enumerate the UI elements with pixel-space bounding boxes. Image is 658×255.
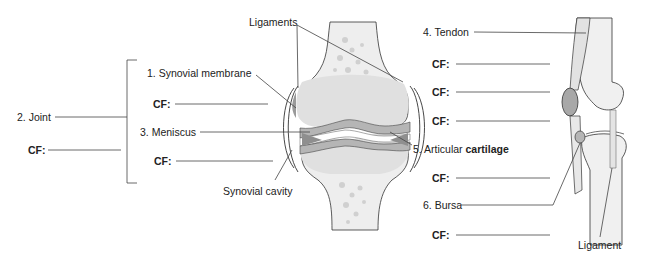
label-joint: 2. Joint (17, 111, 51, 123)
cf-meniscus[interactable]: CF: (154, 155, 172, 167)
articular-prefix: 5. Articular (413, 143, 466, 155)
patella (562, 88, 578, 116)
label-ligament: Ligament (578, 239, 621, 251)
cf-articular-cartilage[interactable]: CF: (432, 172, 450, 184)
knee-diagram-art (0, 0, 658, 255)
label-tendon: 4. Tendon (423, 26, 469, 38)
cf-tendon-3[interactable]: CF: (432, 115, 450, 127)
cf-tendon-1[interactable]: CF: (432, 58, 450, 70)
label-meniscus: 3. Meniscus (140, 126, 196, 138)
label-synovial-membrane: 1. Synovial membrane (147, 67, 251, 79)
label-ligaments: Ligaments (249, 16, 297, 28)
cf-synovial-membrane[interactable]: CF: (153, 98, 171, 110)
joint-capsule-left (288, 86, 298, 172)
label-synovial-cavity: Synovial cavity (223, 185, 292, 197)
cf-joint[interactable]: CF: (28, 144, 46, 156)
bursa (575, 131, 585, 143)
label-bursa: 6. Bursa (423, 199, 462, 211)
cf-tendon-2[interactable]: CF: (432, 86, 450, 98)
side-tibia (582, 134, 627, 245)
label-articular-cartilage: 5. Articular cartilage (413, 143, 509, 155)
cf-bursa[interactable]: CF: (432, 229, 450, 241)
articular-bold: cartilage (466, 143, 509, 155)
